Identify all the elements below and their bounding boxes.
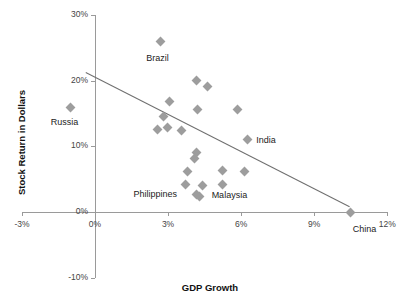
data-point-philippines — [181, 179, 191, 189]
data-point-15 — [218, 166, 228, 176]
y-axis-title: Stock Return in Dollars — [16, 90, 27, 195]
data-point-4 — [164, 97, 174, 107]
data-point-india — [242, 134, 252, 144]
scatter-chart: 30%20%10%0%-10%-3%0%3%6%9%12% RussiaBraz… — [0, 0, 411, 301]
data-point-10 — [176, 126, 186, 136]
data-point-18 — [218, 179, 228, 189]
data-point-label-philippines: Philippines — [134, 189, 178, 199]
data-points-layer: RussiaBrazilIndiaPhilippinesMalaysiaChin… — [0, 0, 411, 301]
data-point-6 — [232, 105, 242, 115]
data-point-16 — [239, 166, 249, 176]
data-point-label-brazil: Brazil — [146, 53, 169, 63]
data-point-malaysia — [198, 180, 208, 190]
data-point-label-malaysia: Malaysia — [212, 190, 248, 200]
data-point-label-china: China — [353, 224, 377, 234]
data-point-russia — [66, 102, 76, 112]
data-point-3 — [203, 81, 213, 91]
data-point-label-india: India — [256, 135, 276, 145]
data-point-label-russia: Russia — [51, 117, 79, 127]
data-point-9 — [163, 122, 173, 132]
data-point-brazil — [155, 36, 165, 46]
x-axis-title: GDP Growth — [140, 282, 280, 293]
data-point-china — [346, 207, 356, 217]
data-point-2 — [191, 76, 201, 86]
data-point-8 — [152, 124, 162, 134]
data-point-7 — [159, 112, 169, 122]
data-point-21 — [195, 192, 205, 202]
data-point-5 — [193, 105, 203, 115]
data-point-14 — [182, 166, 192, 176]
